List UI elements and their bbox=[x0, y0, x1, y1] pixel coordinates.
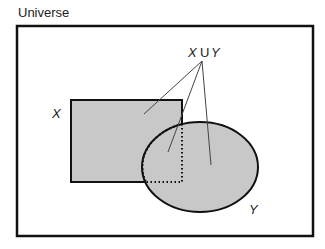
union-label-x: X bbox=[187, 45, 198, 60]
set-y-label: Y bbox=[249, 202, 259, 217]
union-label-y: Y bbox=[211, 45, 221, 60]
set-x-label: X bbox=[51, 106, 62, 121]
union-operator: U bbox=[200, 45, 209, 60]
set-y-ellipse bbox=[142, 122, 258, 212]
venn-diagram: X U Y X Y bbox=[0, 0, 325, 249]
